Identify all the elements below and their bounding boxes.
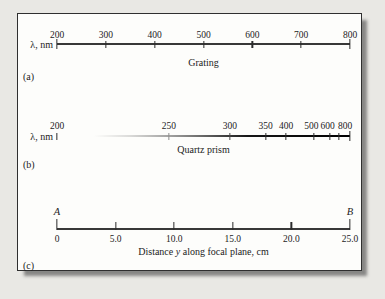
tick-mark — [349, 39, 350, 49]
tick-label: 800 — [343, 30, 357, 40]
tick-label: 200 — [50, 30, 64, 40]
tick-label: 5.0 — [110, 234, 122, 244]
tick-label: 350 — [258, 121, 272, 131]
tick-mark — [349, 219, 350, 230]
tick-label: 500 — [304, 121, 318, 131]
tick-mark — [203, 41, 204, 48]
tick-mark — [56, 219, 57, 230]
quartz-prism-caption: Quartz prism — [57, 144, 350, 155]
figure-card: λ, nm 200300400500600700800 Grating (a) … — [17, 13, 362, 271]
tick-label: 400 — [148, 30, 162, 40]
tick-mark — [291, 222, 292, 230]
endpoint-label-a: A — [54, 206, 60, 217]
grating-caption: Grating — [57, 57, 350, 68]
tick-mark — [313, 133, 314, 140]
tick-mark — [168, 133, 169, 140]
caption-text-post: along focal plane, cm — [180, 246, 269, 257]
tick-mark — [229, 133, 230, 140]
tick-label: 200 — [50, 121, 64, 131]
tick-mark — [265, 133, 266, 140]
tick-mark — [339, 133, 340, 140]
tick-mark — [349, 131, 350, 141]
figure-background: λ, nm 200300400500600700800 Grating (a) … — [0, 0, 385, 299]
tick-mark — [115, 222, 116, 230]
tick-mark — [301, 41, 302, 48]
tick-label: 15.0 — [224, 234, 241, 244]
caption-text-pre: Distance — [138, 246, 176, 257]
tick-label: 500 — [196, 30, 210, 40]
tick-mark — [154, 41, 155, 48]
tick-label: 600 — [321, 121, 335, 131]
wavelength-axis-unit-a: λ, nm — [18, 39, 53, 50]
tick-mark — [252, 41, 253, 48]
tick-mark — [329, 133, 330, 140]
panel-label-a: (a) — [23, 71, 34, 82]
tick-label: 250 — [162, 121, 176, 131]
tick-label: 600 — [245, 30, 259, 40]
tick-label: 0 — [55, 234, 60, 244]
tick-mark — [56, 39, 57, 49]
tick-mark — [174, 222, 175, 230]
tick-label: 800 — [338, 121, 352, 131]
tick-label: 300 — [223, 121, 237, 131]
tick-label: 20.0 — [283, 234, 300, 244]
axis-line — [57, 228, 350, 230]
tick-mark — [56, 133, 57, 140]
tick-label: 700 — [294, 30, 308, 40]
tick-mark — [105, 41, 106, 48]
fading-dispersion-line — [94, 135, 350, 137]
wavelength-axis-unit-b: λ, nm — [18, 131, 53, 142]
tick-label: 400 — [279, 121, 293, 131]
tick-label: 25.0 — [342, 234, 359, 244]
tick-label: 300 — [99, 30, 113, 40]
tick-label: 10.0 — [166, 234, 183, 244]
tick-mark — [232, 222, 233, 230]
endpoint-label-b: B — [347, 206, 353, 217]
panel-label-b: (b) — [23, 159, 35, 170]
tick-mark — [285, 133, 286, 140]
focal-plane-axis-caption: Distance y along focal plane, cm — [57, 246, 350, 257]
panel-label-c: (c) — [23, 260, 34, 271]
